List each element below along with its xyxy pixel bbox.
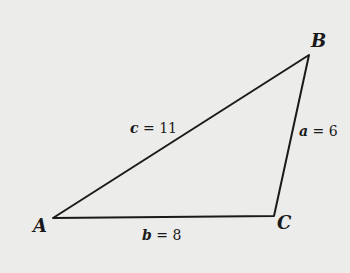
vertex-label-c: C [277,212,292,233]
side-label-c: c = 11 [130,120,177,136]
triangle-diagram: B A C c = 11 a = 6 b = 8 [0,0,350,273]
side-label-b: b = 8 [142,227,181,243]
vertex-label-b: B [310,30,326,51]
side-label-a: a = 6 [299,123,338,139]
vertex-label-a: A [31,215,47,236]
triangle-shape [53,55,309,218]
